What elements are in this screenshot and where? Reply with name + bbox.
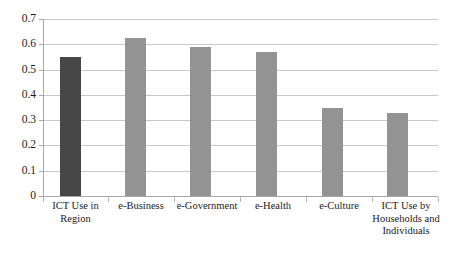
- y-axis-label-0.2: 0.2: [0, 140, 36, 152]
- x-axis-label-line: e-Health: [240, 200, 306, 213]
- y-axis-label-0.1: 0.1: [0, 165, 36, 177]
- x-axis-label-e-culture: e-Culture: [306, 200, 372, 213]
- x-axis-label-e-government: e-Government: [174, 200, 240, 213]
- y-tick-mark-0.4: [39, 95, 43, 96]
- x-axis-label-e-health: e-Health: [240, 200, 306, 213]
- y-tick-mark-0.2: [39, 145, 43, 146]
- bar-e-health: [256, 52, 277, 196]
- x-axis-label-e-business: e-Business: [108, 200, 174, 213]
- x-axis-label-line: Individuals: [370, 225, 442, 238]
- bar-ict-use-by-households-and-individuals: [387, 113, 408, 196]
- y-tick-mark-0.1: [39, 171, 43, 172]
- bar-e-government: [190, 47, 211, 196]
- y-tick-mark-0.5: [39, 70, 43, 71]
- bar-ict-use-in-region: [60, 57, 81, 196]
- gridline-0.1: [43, 171, 438, 172]
- x-axis-label-line: Region: [43, 213, 108, 226]
- gridline-0.3: [43, 120, 438, 121]
- y-axis-label-0.6: 0.6: [0, 39, 36, 51]
- gridline-0.6: [43, 44, 438, 45]
- y-axis-label-0.7: 0.7: [0, 13, 36, 25]
- x-axis-label-ict-use-by-households-and-individuals: ICT Use by Households and Individuals: [370, 200, 442, 238]
- gridline-0.7: [43, 19, 438, 20]
- x-axis-label-line: ICT Use in: [43, 200, 108, 213]
- y-axis-line: [43, 19, 44, 197]
- plot-area: [43, 19, 438, 196]
- x-axis-label-line: e-Culture: [306, 200, 372, 213]
- y-axis-label-0: 0: [0, 190, 36, 202]
- gridline-0.5: [43, 70, 438, 71]
- x-axis-label-line: e-Government: [174, 200, 240, 213]
- y-tick-mark-0.7: [39, 19, 43, 20]
- bar-e-business: [125, 38, 146, 196]
- y-tick-mark-0.3: [39, 120, 43, 121]
- y-axis-label-0.3: 0.3: [0, 114, 36, 126]
- gridline-0.4: [43, 95, 438, 96]
- x-axis-label-line: ICT Use by: [370, 200, 442, 213]
- bar-chart: 0.7 0.6 0.5 0.4 0.3 0.2 0.1 0 ICT Use in…: [0, 0, 460, 256]
- x-axis-label-line: e-Business: [108, 200, 174, 213]
- y-tick-mark-0.6: [39, 44, 43, 45]
- y-axis-label-0.4: 0.4: [0, 89, 36, 101]
- x-axis-label-line: Households and: [370, 213, 442, 226]
- x-axis-label-ict-use-in-region: ICT Use in Region: [43, 200, 108, 225]
- gridline-0.2: [43, 145, 438, 146]
- y-axis-label-0.5: 0.5: [0, 64, 36, 76]
- bar-e-culture: [322, 108, 343, 197]
